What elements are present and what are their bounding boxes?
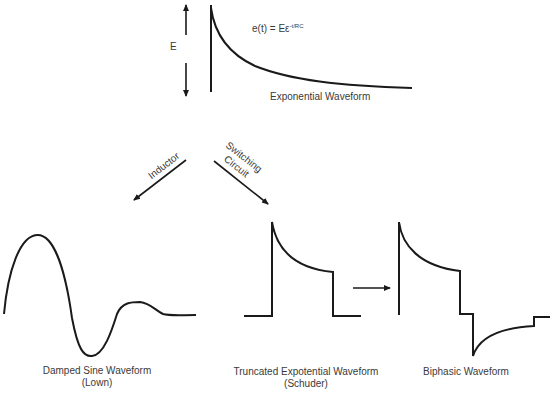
truncated-exponential-waveform bbox=[244, 222, 361, 316]
damped-sine-waveform bbox=[4, 235, 196, 356]
truncated-exponential-title: Truncated Expotential Waveform bbox=[226, 366, 386, 378]
equation-base: e(t) = Eε bbox=[252, 23, 290, 34]
exponential-waveform bbox=[211, 5, 412, 92]
amplitude-label: E bbox=[170, 41, 177, 53]
damped-sine-subtitle: (Lown) bbox=[32, 377, 162, 389]
biphasic-caption: Biphasic Waveform bbox=[411, 366, 521, 378]
biphasic-waveform bbox=[399, 222, 550, 356]
waveform-diagram bbox=[0, 0, 553, 395]
damped-sine-title: Damped Sine Waveform bbox=[32, 365, 162, 377]
truncated-exponential-caption: Truncated Expotential Waveform (Schuder) bbox=[226, 366, 386, 390]
exponential-caption: Exponential Waveform bbox=[270, 91, 370, 103]
damped-sine-caption: Damped Sine Waveform (Lown) bbox=[32, 365, 162, 389]
truncated-exponential-subtitle: (Schuder) bbox=[226, 378, 386, 390]
equation-exponent: -t/RC bbox=[290, 23, 304, 29]
biphasic-title: Biphasic Waveform bbox=[411, 366, 521, 378]
equation-label: e(t) = Eε-t/RC bbox=[252, 23, 304, 34]
